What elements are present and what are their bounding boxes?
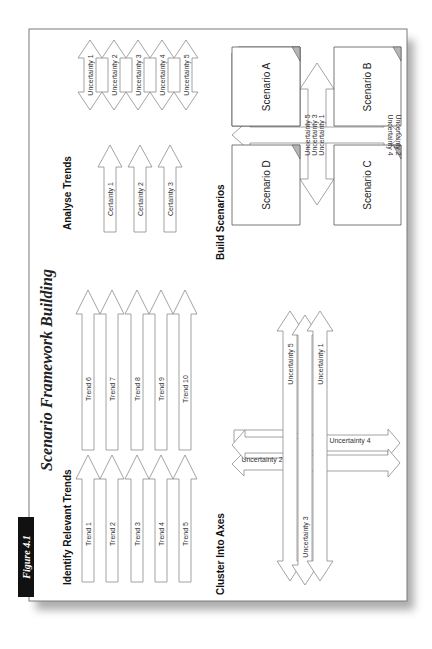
heading-cluster-axes: Cluster Into Axes <box>215 513 226 595</box>
certainty-label: Certainty 1 <box>107 182 115 216</box>
scenario-label: Scenario B <box>362 62 373 111</box>
trend-label: Trend 1 <box>85 522 92 546</box>
scenario-label: Scenario A <box>261 62 272 111</box>
figure-title: Scenario Framework Building <box>38 269 56 471</box>
build-scenarios-diagram: Scenario A Scenario B Scenario C Scenari… <box>232 47 402 225</box>
trend-arrows-group-2: Trend 6 Trend 7 Trend 8 Trend 9 Trend 10 <box>76 290 197 450</box>
trend-label: Trend 8 <box>134 377 141 401</box>
trend-label: Trend 7 <box>109 377 116 401</box>
figure-badge: Figure 4.1 <box>18 517 34 597</box>
axis-label: Uncertainty 4 <box>386 114 394 155</box>
certainty-arrows: Certainty 1 Certainty 2 Certainty 3 <box>98 145 182 232</box>
certainty-label: Certainty 2 <box>137 182 145 216</box>
figure-page: Figure 4.1 Scenario Framework Building I… <box>0 0 432 649</box>
uncertainty-label: Uncertainty 2 <box>111 54 119 95</box>
uncertainty-label: Uncertainty 1 <box>87 54 95 95</box>
axis-label: Uncertainty 5 <box>287 343 295 384</box>
axis-label: Uncertainty 2 <box>394 114 402 155</box>
scenario-label: Scenario D <box>261 160 272 209</box>
trend-label: Trend 10 <box>182 375 189 403</box>
trend-label: Trend 4 <box>158 522 165 546</box>
certainty-label: Certainty 3 <box>167 182 175 216</box>
axis-label: Uncertainty 1 <box>317 343 325 384</box>
uncertainty-label: Uncertainty 4 <box>159 54 167 95</box>
uncertainty-label: Uncertainty 5 <box>183 54 191 95</box>
axis-label: Uncertainty 1 <box>318 114 326 155</box>
uncertainty-label: Uncertainty 3 <box>135 54 143 95</box>
trend-label: Trend 9 <box>158 377 165 401</box>
uncertainty-arrows: Uncertainty 1 Uncertainty 2 Uncertainty … <box>78 40 198 110</box>
figure-badge-label: Figure 4.1 <box>21 535 32 579</box>
scenario-card-a[interactable]: Scenario A <box>232 47 300 126</box>
trend-label: Trend 5 <box>182 522 189 546</box>
trend-label: Trend 3 <box>134 522 141 546</box>
trend-label: Trend 2 <box>109 522 116 546</box>
heading-build-scenarios: Build Scenarios <box>215 184 226 260</box>
scenario-label: Scenario C <box>362 160 373 209</box>
scenario-axis-labels-b: Uncertainty 2 Uncertainty 4 <box>386 114 402 155</box>
heading-identify-trends: Identify Relevant Trends <box>62 469 73 585</box>
trend-arrows-group-1: Trend 1 Trend 2 Trend 3 Trend 4 Trend 5 <box>76 455 197 582</box>
scenario-card-c[interactable]: Scenario C <box>334 145 401 225</box>
rotated-page: Figure 4.1 Scenario Framework Building I… <box>18 29 407 601</box>
axis-label: Uncertainty 4 <box>329 437 370 445</box>
heading-analyse-trends: Analyse Trends <box>62 156 73 230</box>
scenario-card-d[interactable]: Scenario D <box>232 145 300 225</box>
axis-label: Uncertainty 3 <box>302 516 310 557</box>
scenario-axis-labels-a: Uncertainty 5 Uncertainty 3 Uncertainty … <box>304 114 326 155</box>
trend-label: Trend 6 <box>85 377 92 401</box>
